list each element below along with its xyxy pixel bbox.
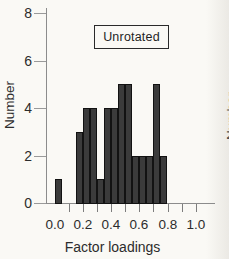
y-tick xyxy=(34,203,46,204)
y-tick-label: 0 xyxy=(24,195,32,211)
x-tick-label: 0.8 xyxy=(159,217,178,232)
y-tick-label: 2 xyxy=(24,148,32,164)
x-tick-label: 0.2 xyxy=(74,217,93,232)
y-axis-line xyxy=(46,8,47,204)
adjacent-panel-fragment: Number xyxy=(220,62,229,146)
y-axis-label: Number xyxy=(1,70,17,140)
x-tick-label: 1.0 xyxy=(187,217,206,232)
histogram-bar xyxy=(153,84,160,204)
y-tick xyxy=(34,108,46,109)
histogram-bar xyxy=(139,156,146,204)
x-tick xyxy=(111,204,112,212)
x-axis-label: Factor loadings xyxy=(55,239,170,255)
histogram-bar xyxy=(125,84,132,204)
x-tick xyxy=(153,204,154,212)
histogram-bar xyxy=(76,132,83,204)
histogram-bar xyxy=(90,108,97,204)
panel-label-box: Unrotated xyxy=(94,25,169,49)
adjacent-panel-y-axis-label: Number xyxy=(224,68,229,140)
histogram-bar xyxy=(111,108,118,204)
histogram-bar xyxy=(118,84,125,204)
x-tick xyxy=(182,204,183,212)
histogram-bar xyxy=(104,108,111,204)
x-tick xyxy=(83,204,84,212)
y-tick xyxy=(34,156,46,157)
histogram-bar xyxy=(55,179,62,204)
x-tick xyxy=(139,204,140,212)
histogram-bar xyxy=(83,108,90,204)
histogram-bar xyxy=(146,156,153,204)
y-tick-label: 6 xyxy=(24,53,32,69)
x-tick xyxy=(69,204,70,212)
x-tick xyxy=(168,204,169,212)
histogram-bar xyxy=(132,156,139,204)
x-tick-label: 0.4 xyxy=(102,217,121,232)
x-tick-label: 0.0 xyxy=(46,217,65,232)
y-tick xyxy=(34,61,46,62)
x-tick xyxy=(196,204,197,212)
panel-label: Unrotated xyxy=(103,30,160,44)
y-tick-label: 4 xyxy=(24,100,32,116)
x-tick-label: 0.6 xyxy=(130,217,149,232)
x-tick xyxy=(125,204,126,212)
y-tick xyxy=(34,13,46,14)
histogram-bar xyxy=(97,179,104,204)
figure: Number 02468 0.00.20.40.60.81.0 Unrotate… xyxy=(0,0,229,259)
y-tick-label: 8 xyxy=(24,5,32,21)
histogram-bar xyxy=(160,156,167,204)
x-tick xyxy=(97,204,98,212)
